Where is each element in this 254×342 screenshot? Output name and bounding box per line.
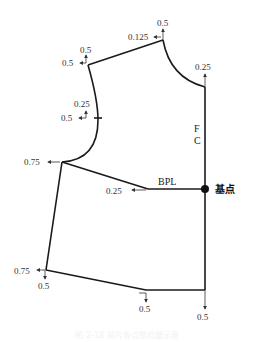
figure-caption: 图 2-18 前片各点推档量示意 (75, 330, 178, 340)
hem-mid-down-label: 0.5 (139, 304, 151, 314)
center-front-label-c: C (194, 135, 201, 146)
side-hem-down-label: 0.5 (38, 281, 50, 291)
hem-mid-down-arrow (139, 293, 146, 302)
shoulder-left-label: 0.5 (62, 58, 74, 68)
front-neck-up-label: 0.25 (195, 62, 211, 72)
shoulder-line (88, 40, 163, 65)
bpl-label: BPL (158, 176, 176, 187)
notch-up-label: 0.25 (74, 99, 90, 109)
dart-line (62, 162, 148, 189)
side-hem-left-label: 0.75 (14, 266, 30, 276)
neck-side-left-label: 0.125 (128, 32, 149, 42)
shoulder-up-label: 0.5 (80, 45, 92, 55)
base-point-label: 基点 (214, 183, 235, 195)
center-front-label-f: F (194, 123, 200, 134)
notch-left-label: 0.5 (61, 113, 73, 123)
base-point-dot (201, 185, 209, 193)
center-hem-down-label: 0.5 (197, 312, 209, 322)
side-seam (46, 162, 62, 270)
underarm-left-label: 0.75 (24, 157, 40, 167)
pattern-diagram: 基点 0.5 0.125 0.5 0.5 0.25 0.25 0.5 0.75 … (0, 0, 254, 342)
bpl-left-label: 0.25 (106, 186, 122, 196)
neck-side-up-label: 0.5 (157, 18, 169, 28)
hem-line (46, 270, 205, 290)
